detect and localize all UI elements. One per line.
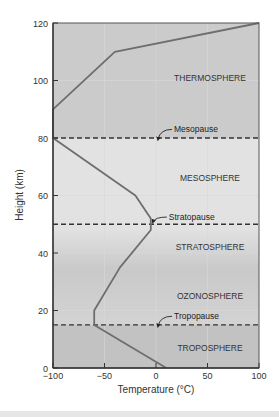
y-tick-label: 100 [33,76,48,86]
x-tick-label: 0 [153,371,158,381]
x-tick-label: −50 [97,371,112,381]
x-tick-label: −100 [43,371,63,381]
layer-label-ozonosphere: OZONOSPHERE [177,291,243,301]
x-tick-label: 100 [251,371,266,381]
mesopause-annotation: Mesopause [174,124,218,134]
page-edge-strip [0,411,279,417]
y-tick-label: 20 [38,306,48,316]
y-tick-label: 60 [38,191,48,201]
y-tick-label: 80 [38,134,48,144]
y-tick-label: 40 [38,249,48,259]
stratopause-annotation: Stratopause [169,212,215,222]
atmosphere-temperature-chart: 020406080100120−100−50050100 TROPOSPHERE… [0,0,279,417]
y-tick-label: 120 [33,19,48,29]
x-axis-label: Temperature (°C) [118,384,195,395]
x-tick-label: 50 [202,371,212,381]
layer-label-stratosphere: STRATOSPHERE [176,242,245,252]
layer-label-thermosphere: THERMOSPHERE [174,73,246,83]
tropopause-annotation: Tropopause [174,311,219,321]
layer-label-mesosphere: MESOSPHERE [180,173,240,183]
y-axis-label: Height (km) [14,169,25,221]
layer-label-troposphere: TROPOSPHERE [177,343,243,353]
